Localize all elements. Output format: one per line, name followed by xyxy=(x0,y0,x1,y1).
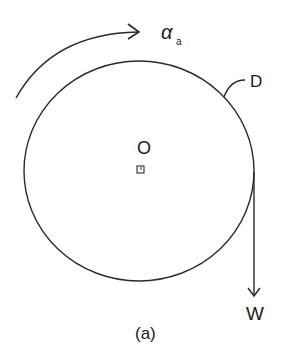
disk-circle xyxy=(24,61,254,281)
center-label: O xyxy=(137,138,151,158)
disk-leader-line xyxy=(224,80,245,97)
weight-arrow-icon xyxy=(248,172,260,296)
center-marker-icon xyxy=(137,166,144,173)
disk-label: D xyxy=(250,72,262,91)
rotation-arrow-icon xyxy=(16,24,139,98)
figure-caption: (a) xyxy=(135,324,156,343)
weight-label: W xyxy=(246,303,264,324)
alpha-subscript-label: a xyxy=(176,36,182,47)
alpha-label: α xyxy=(161,21,173,43)
pulley-diagram: α a D O W (a) xyxy=(0,0,303,360)
